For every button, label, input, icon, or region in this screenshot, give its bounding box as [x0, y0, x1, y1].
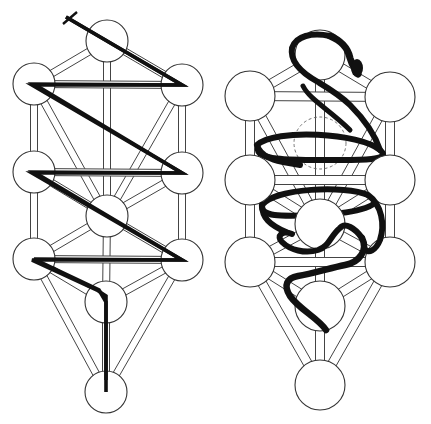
- tree-of-life-diagram: [0, 0, 431, 424]
- sephirah-chokmah: [365, 72, 415, 122]
- sephirah-binah: [225, 71, 275, 121]
- sephirah-tiphareth: [295, 199, 345, 249]
- serpent-head-icon: [351, 59, 363, 77]
- sephirah-netzach: [365, 237, 415, 287]
- serpent-tree: [225, 30, 415, 410]
- lightning-flash-tree: [13, 12, 203, 413]
- sephirah-geburah: [225, 155, 275, 205]
- sephirah-hod: [225, 237, 275, 287]
- sephirah-malkuth: [295, 360, 345, 410]
